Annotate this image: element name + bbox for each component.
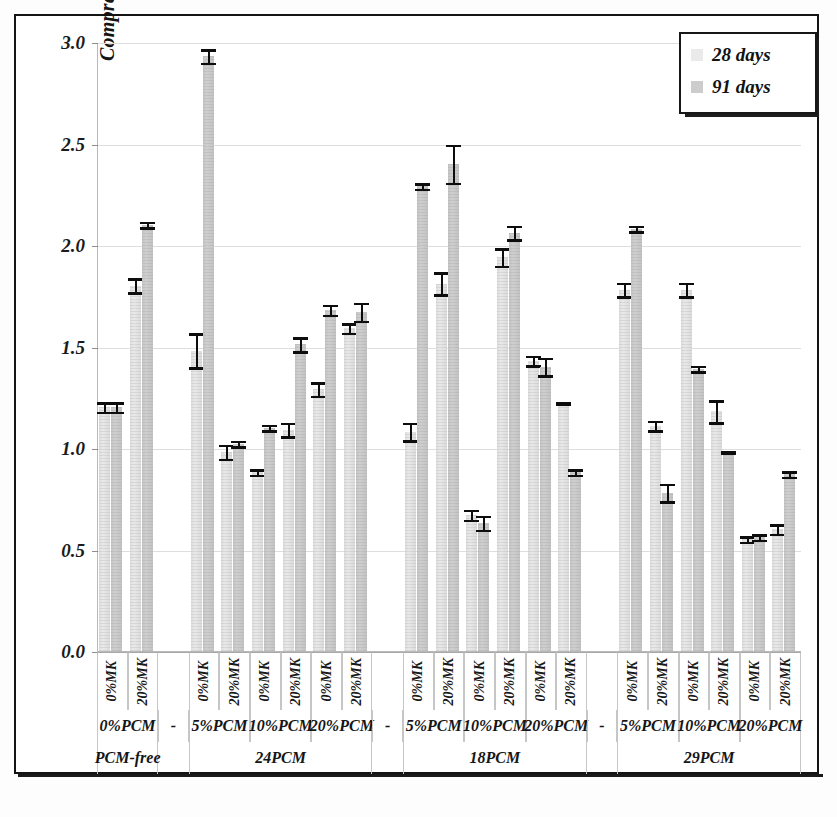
category-cell-group: 29PCM xyxy=(617,742,801,774)
error-bar-cap-top xyxy=(709,400,724,403)
category-gap-cell xyxy=(587,652,618,710)
category-row-group: PCM-free24PCM18PCM29PCM xyxy=(97,742,801,774)
category-cell-mk: 0%MK xyxy=(189,652,220,710)
error-bar-stem xyxy=(716,400,718,424)
error-bar-cap-top xyxy=(679,283,694,286)
bar-d28 xyxy=(681,290,692,651)
mk-label: 20%MK xyxy=(441,658,457,705)
error-bar-cap-top xyxy=(660,484,675,487)
bar-d91 xyxy=(111,407,122,651)
category-cell-pcm: 10%PCM xyxy=(464,710,525,742)
bar-d28 xyxy=(252,472,263,651)
bar-d91 xyxy=(417,186,428,651)
bar-d91 xyxy=(478,523,489,651)
group-gap-cell xyxy=(158,742,189,774)
category-cell-pcm: 10%PCM xyxy=(679,710,740,742)
category-row-pcm: 0%PCM-5%PCM10%PCM20%PCM-5%PCM10%PCM20%PC… xyxy=(97,710,801,742)
bar-column xyxy=(190,43,221,651)
y-tick-label: 0.0 xyxy=(15,641,97,663)
bar-column xyxy=(129,43,160,651)
category-cell-mk: 0%MK xyxy=(311,652,342,710)
error-bar xyxy=(250,469,265,477)
error-bar-cap-top xyxy=(189,333,204,336)
error-bar-cap-bottom xyxy=(189,367,204,370)
mk-label: 20%MK xyxy=(349,658,365,705)
bar-column xyxy=(312,43,343,651)
error-bar-cap-bottom xyxy=(250,475,265,478)
error-bar xyxy=(568,469,583,477)
error-bar-cap-top xyxy=(434,272,449,275)
mk-label: 0%MK xyxy=(319,661,335,701)
category-gap-cell xyxy=(372,652,403,710)
error-bar xyxy=(109,402,124,414)
bar-d91 xyxy=(570,472,581,651)
category-separator: - xyxy=(372,710,403,742)
mk-label: 0%MK xyxy=(686,661,702,701)
error-bar-cap-top xyxy=(354,303,369,306)
category-row-mk: 0%MK20%MK0%MK20%MK0%MK20%MK0%MK20%MK0%MK… xyxy=(97,652,801,710)
error-bar xyxy=(752,534,767,542)
error-bar xyxy=(691,366,706,374)
bar-d28 xyxy=(313,389,324,651)
pcm-label: 10%PCM xyxy=(463,717,527,735)
error-bar-cap-top xyxy=(446,145,461,148)
bar-d28 xyxy=(497,257,508,651)
error-bar-cap-top xyxy=(201,49,216,52)
mk-label: 20%MK xyxy=(655,658,671,705)
category-cell-group: 18PCM xyxy=(403,742,587,774)
mk-label: 20%MK xyxy=(563,658,579,705)
bar-d91 xyxy=(203,56,214,651)
bar-d91 xyxy=(631,229,642,651)
mk-label: 20%MK xyxy=(502,658,518,705)
error-bar-cap-top xyxy=(342,323,357,326)
bar-d28 xyxy=(466,515,477,651)
error-bar xyxy=(403,423,418,443)
category-cell-pcm: 5%PCM xyxy=(617,710,678,742)
pcm-label: 10%PCM xyxy=(677,717,741,735)
error-bar xyxy=(189,333,204,370)
error-bar-cap-bottom xyxy=(231,446,246,449)
error-bar xyxy=(262,425,277,433)
bar-series xyxy=(98,43,801,651)
pcm-label: 10%PCM xyxy=(249,717,313,735)
category-cell-mk: 20%MK xyxy=(281,652,312,710)
bar-d91 xyxy=(540,367,551,651)
category-cell-mk: 0%MK xyxy=(97,652,128,710)
plot-area: Compresive strength (MPa) 3.02.52.01.51.… xyxy=(97,43,801,652)
group-gap-cell xyxy=(587,742,618,774)
bar-d28 xyxy=(772,529,783,651)
error-bar-cap-bottom xyxy=(782,477,797,480)
bar-d91 xyxy=(448,164,459,651)
error-bar xyxy=(629,226,644,234)
category-cell-mk: 0%MK xyxy=(526,652,557,710)
error-bar-cap-bottom xyxy=(752,540,767,543)
bar-column xyxy=(710,43,741,651)
error-bar xyxy=(721,451,736,455)
category-cell-group: 24PCM xyxy=(189,742,373,774)
error-bar-cap-bottom xyxy=(281,436,296,439)
pcm-label: 20%PCM xyxy=(310,717,374,735)
bar-d28 xyxy=(711,411,722,651)
category-cell-mk: 20%MK xyxy=(495,652,526,710)
mk-label: 20%MK xyxy=(288,658,304,705)
category-cell-pcm: 10%PCM xyxy=(250,710,311,742)
bar-column xyxy=(98,43,129,651)
legend: 28 days 91 days xyxy=(679,32,819,116)
error-bar-cap-top xyxy=(293,337,308,340)
bar-d28 xyxy=(130,286,141,651)
error-bar-cap-top xyxy=(262,425,277,428)
category-cell-mk: 0%MK xyxy=(250,652,281,710)
bar-d28 xyxy=(619,290,630,651)
bar-d28 xyxy=(344,328,355,651)
y-tick-label: 2.0 xyxy=(15,235,97,257)
bar-d91 xyxy=(356,312,367,651)
error-bar xyxy=(434,272,449,296)
error-bar xyxy=(538,358,553,378)
legend-label-28-days: 28 days xyxy=(712,44,771,66)
bar-d28 xyxy=(436,284,447,651)
bar-d28 xyxy=(650,426,661,651)
error-bar-cap-top xyxy=(648,421,663,424)
error-bar-cap-top xyxy=(617,283,632,286)
legend-item-91-days: 91 days xyxy=(691,72,771,102)
legend-swatch-28-days xyxy=(691,49,703,61)
